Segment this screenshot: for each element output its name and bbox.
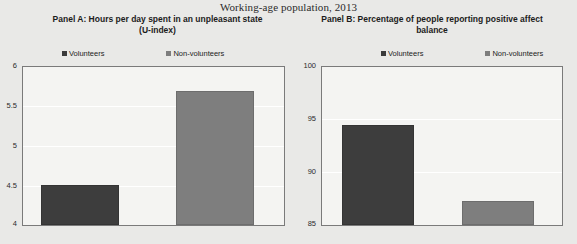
panel-b: Panel B: Percentage of people reporting … [293, 14, 577, 244]
legend-label: Volunteers [69, 49, 104, 58]
panel-b-plot: 100 95 90 85 [293, 66, 577, 230]
gridline [322, 119, 562, 120]
bar-volunteers[interactable] [41, 185, 119, 225]
panel-b-title: Panel B: Percentage of people reporting … [293, 14, 577, 36]
y-tick-label: 100 [293, 62, 316, 70]
legend-label: Non-volunteers [173, 49, 224, 58]
chart-figure: Working-age population, 2013 Panel A: Ho… [0, 0, 577, 244]
panel-b-title-line2: balance [293, 25, 571, 36]
y-tick-label: 85 [293, 220, 316, 228]
y-tick-label: 5 [0, 142, 17, 150]
y-tick-label: 6 [0, 62, 17, 70]
legend-item-non-volunteers[interactable]: Non-volunteers [485, 49, 543, 58]
bar-non-volunteers[interactable] [462, 201, 534, 225]
legend-label: Non-volunteers [492, 49, 543, 58]
legend-swatch-icon [381, 51, 386, 56]
legend-swatch-icon [166, 51, 171, 56]
y-tick-label: 90 [293, 168, 316, 176]
y-tick-label: 4 [0, 220, 17, 228]
legend-swatch-icon [485, 51, 490, 56]
legend-item-volunteers[interactable]: Volunteers [62, 49, 104, 58]
panel-b-plot-area [321, 66, 563, 226]
y-tick-label: 95 [293, 115, 316, 123]
legend-swatch-icon [62, 51, 67, 56]
y-tick-label: 5.5 [0, 102, 17, 110]
panel-a-title-line2: (U-index) [22, 25, 293, 36]
y-tick-label: 4.5 [0, 182, 17, 190]
panel-a-title-line1: Panel A: Hours per day spent in an unple… [22, 14, 293, 25]
panel-a-plot-area [22, 66, 285, 226]
figure-title: Working-age population, 2013 [0, 1, 577, 13]
legend-item-non-volunteers[interactable]: Non-volunteers [166, 49, 224, 58]
panel-a-title: Panel A: Hours per day spent in an unple… [0, 14, 293, 36]
legend-item-volunteers[interactable]: Volunteers [381, 49, 423, 58]
bar-volunteers[interactable] [342, 125, 414, 225]
panel-a: Panel A: Hours per day spent in an unple… [0, 14, 293, 244]
bar-non-volunteers[interactable] [176, 91, 254, 225]
panel-a-legend: Volunteers Non-volunteers [62, 47, 262, 59]
panel-b-legend: Volunteers Non-volunteers [381, 47, 571, 59]
panel-a-plot: 6 5.5 5 4.5 4 [0, 66, 293, 230]
legend-label: Volunteers [388, 49, 423, 58]
panel-b-title-line1: Panel B: Percentage of people reporting … [293, 14, 571, 25]
